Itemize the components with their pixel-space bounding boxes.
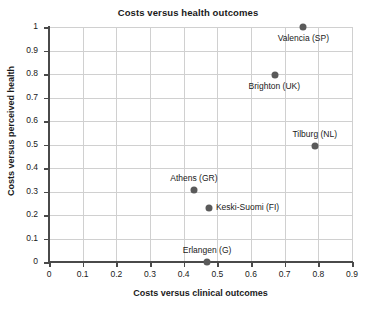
gridline-horizontal <box>49 145 352 146</box>
data-point-marker[interactable] <box>190 187 197 194</box>
x-axis-tick <box>49 262 51 267</box>
x-axis-tick <box>318 262 320 267</box>
y-axis-tick <box>44 168 49 170</box>
data-point-label: Tilburg (NL) <box>292 129 337 139</box>
x-axis-tick <box>184 262 186 267</box>
data-point-marker[interactable] <box>204 259 211 266</box>
data-point-label: Valencia (SP) <box>278 33 329 43</box>
gridline-horizontal <box>49 192 352 193</box>
x-axis-title: Costs versus clinical outcomes <box>49 288 352 298</box>
x-axis-tick <box>352 262 354 267</box>
gridline-horizontal <box>49 98 352 99</box>
gridline-horizontal <box>49 239 352 240</box>
data-point-label: Athens (GR) <box>170 173 217 183</box>
gridline-horizontal <box>49 51 352 52</box>
y-axis-tick-label: 0.9 <box>0 45 38 55</box>
y-axis-tick-label: 0.8 <box>0 68 38 78</box>
gridline-horizontal <box>49 215 352 216</box>
gridline-vertical <box>285 27 286 262</box>
y-axis-tick-label: 0.3 <box>0 186 38 196</box>
y-axis-tick-label: 0.5 <box>0 139 38 149</box>
chart-title: Costs versus health outcomes <box>0 7 376 18</box>
y-axis-tick-label: 0.4 <box>0 162 38 172</box>
gridline-horizontal <box>49 121 352 122</box>
x-axis-tick-label: 0.5 <box>200 269 234 279</box>
gridline-horizontal <box>49 74 352 75</box>
y-axis-tick <box>44 121 49 123</box>
y-axis-title-text: Costs versus perceived health <box>6 66 16 196</box>
y-axis-tick <box>44 239 49 241</box>
y-axis-tick-label: 1 <box>0 21 38 31</box>
data-point-marker[interactable] <box>271 72 278 79</box>
x-axis-tick-label: 0.7 <box>268 269 302 279</box>
gridline-vertical <box>150 27 151 262</box>
y-axis-tick-label: 0.1 <box>0 233 38 243</box>
data-point-label: Keski-Suomi (FI) <box>216 202 279 212</box>
x-axis-line <box>48 261 353 263</box>
gridline-vertical <box>352 27 353 262</box>
x-axis-tick <box>251 262 253 267</box>
x-axis-tick-label: 0.3 <box>133 269 167 279</box>
x-axis-tick-label: 0 <box>32 269 66 279</box>
gridline-vertical <box>83 27 84 262</box>
y-axis-tick-label: 0.6 <box>0 115 38 125</box>
y-axis-title: Costs versus perceived health <box>4 0 18 262</box>
gridline-vertical <box>318 27 319 262</box>
y-axis-tick <box>44 27 49 29</box>
x-axis-tick <box>116 262 118 267</box>
x-axis-tick <box>285 262 287 267</box>
scatter-chart: Costs versus health outcomes Costs versu… <box>0 0 376 309</box>
y-axis-tick <box>44 145 49 147</box>
plot-area <box>49 27 352 262</box>
y-axis-tick <box>44 51 49 53</box>
data-point-marker[interactable] <box>205 204 212 211</box>
x-axis-tick <box>150 262 152 267</box>
x-axis-tick-label: 0.9 <box>335 269 369 279</box>
gridline-vertical <box>251 27 252 262</box>
x-axis-tick-label: 0.8 <box>301 269 335 279</box>
y-axis-tick <box>44 74 49 76</box>
x-axis-tick <box>83 262 85 267</box>
gridline-vertical <box>184 27 185 262</box>
y-axis-tick-label: 0 <box>0 256 38 266</box>
data-point-marker[interactable] <box>300 24 307 31</box>
y-axis-tick-label: 0.2 <box>0 209 38 219</box>
x-axis-tick-label: 0.1 <box>66 269 100 279</box>
gridline-vertical <box>116 27 117 262</box>
gridline-horizontal <box>49 168 352 169</box>
x-axis-tick-label: 0.6 <box>234 269 268 279</box>
x-axis-tick-label: 0.2 <box>99 269 133 279</box>
y-axis-tick <box>44 192 49 194</box>
x-axis-tick <box>217 262 219 267</box>
data-point-label: Brighton (UK) <box>249 81 301 91</box>
gridline-vertical <box>217 27 218 262</box>
data-point-label: Erlangen (G) <box>183 245 232 255</box>
y-axis-tick <box>44 215 49 217</box>
y-axis-tick-label: 0.7 <box>0 92 38 102</box>
x-axis-tick-label: 0.4 <box>167 269 201 279</box>
data-point-marker[interactable] <box>311 142 318 149</box>
y-axis-tick <box>44 98 49 100</box>
